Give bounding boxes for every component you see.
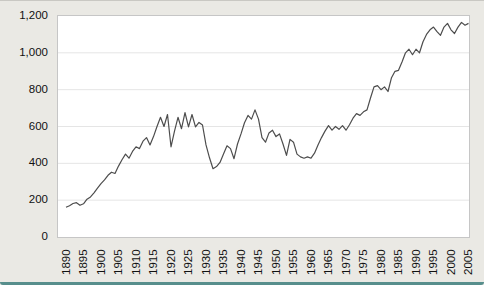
y-tick-label: 800 bbox=[0, 82, 48, 96]
x-tick-label: 1965 bbox=[322, 249, 334, 275]
x-tick-label: 1990 bbox=[410, 249, 422, 275]
y-tick-label: 200 bbox=[0, 192, 48, 206]
x-tick-label: 1910 bbox=[130, 249, 142, 275]
chart-canvas bbox=[58, 16, 469, 237]
x-tick-label: 1905 bbox=[112, 249, 124, 275]
x-tick-label: 1985 bbox=[392, 249, 404, 275]
x-tick-label: 1945 bbox=[252, 249, 264, 275]
x-tick-label: 2000 bbox=[445, 249, 457, 275]
y-tick-label: 600 bbox=[0, 119, 48, 133]
x-tick-label: 1955 bbox=[287, 249, 299, 275]
x-tick-label: 1975 bbox=[357, 249, 369, 275]
plot-area bbox=[57, 15, 470, 238]
x-tick-label: 1980 bbox=[375, 249, 387, 275]
x-tick-label: 1935 bbox=[217, 249, 229, 275]
x-tick-label: 1895 bbox=[77, 249, 89, 275]
y-tick-label: 1,000 bbox=[0, 45, 48, 59]
x-tick-label: 1930 bbox=[200, 249, 212, 275]
x-tick-label: 1970 bbox=[340, 249, 352, 275]
x-tick-label: 1960 bbox=[305, 249, 317, 275]
x-tick-label: 1940 bbox=[235, 249, 247, 275]
data-series-line bbox=[66, 22, 469, 207]
x-tick-label: 1915 bbox=[147, 249, 159, 275]
x-tick-label: 1900 bbox=[95, 249, 107, 275]
x-tick-label: 1920 bbox=[165, 249, 177, 275]
x-tick-label: 2005 bbox=[462, 249, 474, 275]
x-tick-label: 1995 bbox=[427, 249, 439, 275]
x-tick-label: 1950 bbox=[270, 249, 282, 275]
x-tick-label: 1890 bbox=[60, 249, 72, 275]
x-tick-label: 1925 bbox=[182, 249, 194, 275]
y-tick-label: 400 bbox=[0, 155, 48, 169]
y-tick-label: 1,200 bbox=[0, 8, 48, 22]
y-tick-label: 0 bbox=[0, 229, 48, 243]
line-chart-figure: 02004006008001,0001,200 1890189519001905… bbox=[0, 0, 484, 285]
